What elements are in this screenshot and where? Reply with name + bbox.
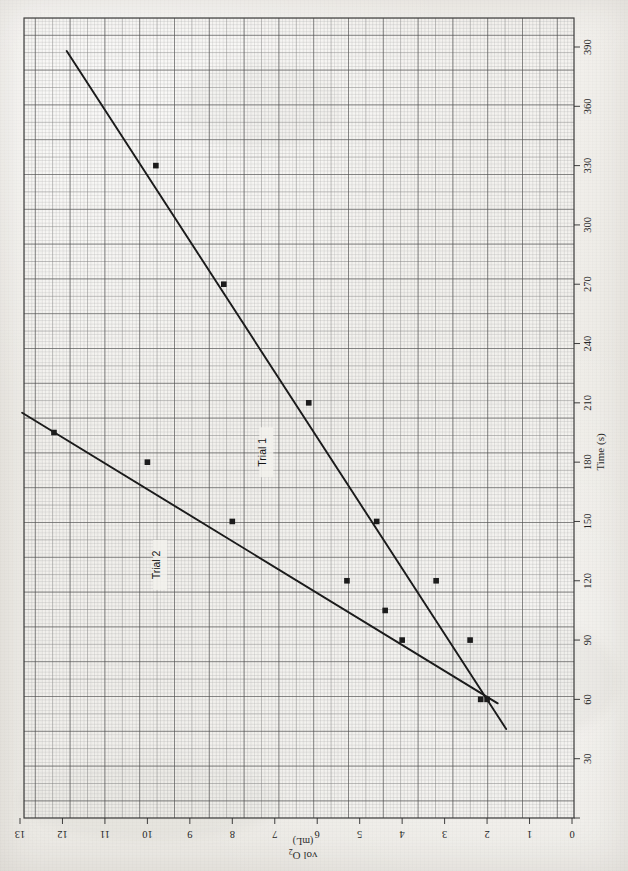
time-tick-label: 30: [582, 753, 593, 764]
time-axis-title: Time (s): [594, 433, 607, 471]
data-point-marker: [145, 459, 151, 465]
data-point-marker: [382, 608, 388, 614]
time-tick-label: 360: [582, 98, 593, 114]
svg-text:Time (s): Time (s): [594, 433, 607, 471]
data-point-marker: [399, 637, 405, 643]
data-point-marker: [306, 400, 312, 406]
svg-text:(mL): (mL): [293, 835, 314, 847]
vol-axis-title-subscript: 2: [289, 847, 293, 856]
time-tick-label: 120: [582, 573, 593, 589]
vol-axis-title: vol O2 (mL): [289, 835, 318, 862]
graph-svg: 306090120150180210240270300330360390 012…: [0, 0, 628, 871]
time-tick-label: 90: [582, 635, 593, 646]
time-tick-label: 240: [582, 336, 593, 352]
data-point-marker: [433, 578, 439, 584]
vol-tick-label: 8: [230, 829, 235, 840]
time-axis-ticks: 306090120150180210240270300330360390: [574, 39, 593, 818]
svg-text:Trial 2: Trial 2: [150, 550, 162, 579]
time-tick-label: 180: [582, 454, 593, 470]
vol-tick-label: 12: [57, 829, 68, 840]
data-point-marker: [230, 519, 236, 525]
time-tick-label: 330: [582, 158, 593, 174]
vol-tick-label: 9: [187, 829, 192, 840]
data-point-marker: [478, 697, 484, 703]
time-tick-label: 270: [582, 276, 593, 292]
vol-tick-label: 0: [569, 829, 574, 840]
data-point-marker: [153, 163, 159, 169]
vol-tick-label: 7: [272, 829, 277, 840]
vol-tick-label: 3: [442, 829, 447, 840]
time-tick-label: 60: [582, 694, 593, 705]
graph-paper-grid: [24, 18, 574, 818]
vol-tick-label: 6: [315, 829, 320, 840]
time-tick-label: 390: [582, 39, 593, 55]
data-point-marker: [51, 430, 57, 436]
vol-tick-label: 2: [484, 829, 489, 840]
time-tick-label: 300: [582, 217, 593, 233]
vol-tick-label: 5: [357, 829, 362, 840]
data-point-marker: [221, 281, 227, 287]
graph-figure: 306090120150180210240270300330360390 012…: [0, 0, 628, 871]
vol-axis-title-text: vol O: [293, 850, 318, 862]
time-tick-label: 150: [582, 514, 593, 530]
data-point-marker: [344, 578, 350, 584]
svg-text:vol O2: vol O2: [289, 847, 318, 862]
vol-tick-label: 13: [15, 829, 26, 840]
svg-text:Trial 1: Trial 1: [256, 438, 268, 467]
vol-tick-label: 1: [527, 829, 532, 840]
time-tick-label: 210: [582, 395, 593, 411]
vol-tick-label: 4: [399, 829, 405, 840]
vol-tick-label: 10: [142, 829, 153, 840]
data-point-marker: [374, 519, 380, 525]
vol-tick-label: 11: [100, 829, 110, 840]
data-point-marker: [467, 637, 473, 643]
